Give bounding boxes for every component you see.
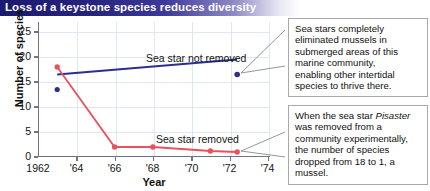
callout-bottom-species-italic: Pisaster: [376, 110, 411, 121]
callout-bottom-pre: When the sea star: [295, 110, 376, 121]
data-point-removed: [150, 144, 155, 149]
leader-line-bottom: [241, 132, 285, 157]
callout-bottom-line-3: community experimentally,: [295, 133, 422, 144]
callout-top: Sea stars completely eliminated mussels …: [288, 18, 428, 97]
callout-top-line-2: eliminated mussels in: [295, 34, 422, 45]
callout-bottom-line-5: dropped from 18 to 1, a: [295, 156, 422, 167]
callout-bottom-line-6: mussel.: [295, 167, 422, 178]
annotation-removed: Sea star removed: [156, 133, 239, 145]
callout-bottom-line-1: When the sea star Pisaster: [295, 110, 422, 121]
callout-top-line-5: enabling other intertidal: [295, 69, 422, 80]
data-point-removed: [112, 144, 117, 149]
data-point-not-removed: [234, 72, 240, 78]
callout-top-line-6: species to thrive there.: [295, 80, 422, 91]
callout-top-line-4: marine community,: [295, 57, 422, 68]
data-point-removed: [235, 149, 240, 154]
callout-top-line-1: Sea stars completely: [295, 23, 422, 34]
annotation-not-removed: Sea star not removed: [146, 52, 246, 64]
leader-line-top: [241, 30, 285, 73]
data-point-removed: [208, 148, 213, 153]
data-point-removed: [55, 64, 60, 69]
figure-root: Loss of a keystone species reduces diver…: [0, 0, 430, 191]
callout-bottom: When the sea star Pisaster was removed f…: [288, 105, 428, 185]
callout-bottom-line-2: was removed from a: [295, 121, 422, 132]
data-point-not-removed: [55, 87, 60, 92]
callout-top-line-3: submerged areas of this: [295, 46, 422, 57]
callout-bottom-line-4: the number of species: [295, 144, 422, 155]
